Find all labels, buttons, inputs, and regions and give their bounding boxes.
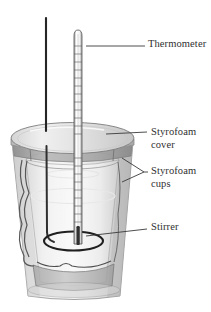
label-stirrer: Stirrer bbox=[151, 221, 179, 234]
label-styrofoam-cover-line2: cover bbox=[151, 139, 175, 150]
label-styrofoam-cups-line2: cups bbox=[151, 178, 171, 189]
label-thermometer: Thermometer bbox=[148, 38, 206, 51]
label-styrofoam-cups-line1: Styrofoam bbox=[151, 165, 196, 176]
thermometer-bulb bbox=[76, 226, 79, 245]
styrofoam-cup-inner bbox=[26, 151, 119, 286]
styrofoam-cover bbox=[11, 123, 134, 154]
thermometer bbox=[74, 30, 82, 245]
label-styrofoam-cover-line1: Styrofoam bbox=[151, 126, 196, 137]
label-styrofoam-cover: Styrofoam cover bbox=[151, 126, 211, 151]
figure-canvas: Thermometer Styrofoam cover Styrofoam cu… bbox=[0, 0, 211, 312]
label-styrofoam-cups: Styrofoam cups bbox=[151, 165, 211, 190]
